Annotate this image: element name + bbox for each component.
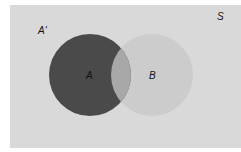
- universal-set-label: S: [217, 11, 224, 22]
- set-b-label: B: [149, 70, 156, 81]
- complement-label: A': [37, 25, 48, 36]
- venn-diagram: A B A' S: [0, 0, 241, 152]
- set-a-label: A: [85, 70, 93, 81]
